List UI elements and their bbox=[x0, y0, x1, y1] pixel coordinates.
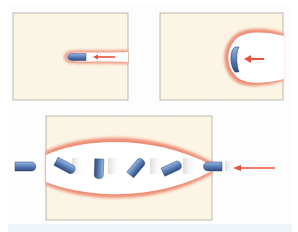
projectile-1 bbox=[15, 162, 36, 171]
wake bbox=[108, 158, 122, 174]
panel-2 bbox=[160, 13, 284, 100]
wake bbox=[183, 158, 197, 174]
panel-1 bbox=[13, 13, 133, 100]
panel-3 bbox=[15, 116, 275, 220]
wake bbox=[150, 158, 164, 174]
projectile-3 bbox=[94, 159, 104, 179]
projectile-6 bbox=[204, 162, 223, 171]
projectile bbox=[68, 54, 87, 61]
wake bbox=[225, 161, 235, 171]
diagram-canvas bbox=[0, 0, 298, 232]
